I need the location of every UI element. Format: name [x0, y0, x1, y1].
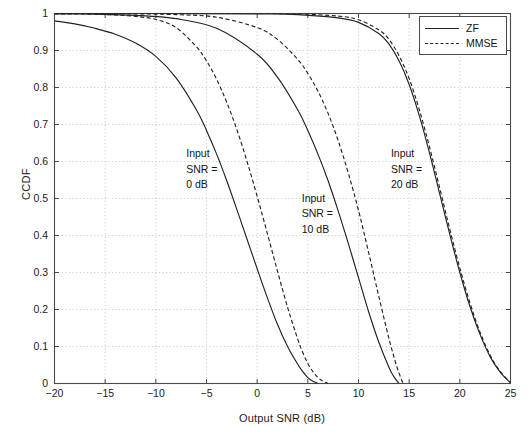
x-axis-label: Output SNR (dB) [54, 412, 510, 424]
x-tick-label: −10 [136, 387, 176, 399]
x-tick-label: 0 [237, 387, 277, 399]
y-tick-label: 0.2 [8, 303, 48, 315]
chart-annotation: Input SNR = 20 dB [391, 146, 422, 193]
legend-item-label: ZF [466, 22, 479, 34]
y-tick-label: 1 [8, 7, 48, 19]
chart-annotation: Input SNR = 0 dB [186, 146, 217, 193]
legend-line-swatch-icon [425, 38, 459, 48]
y-tick-label: 0.9 [8, 44, 48, 56]
y-tick-label: 0.1 [8, 340, 48, 352]
legend-line-swatch-icon [425, 23, 459, 33]
x-tick-label: 15 [389, 387, 429, 399]
series-line-0 [55, 21, 318, 384]
x-tick-label: 5 [288, 387, 328, 399]
legend-item-zf[interactable]: ZF [420, 20, 503, 35]
series-line-2 [55, 14, 400, 384]
y-tick-label: 0.4 [8, 229, 48, 241]
y-tick-label: 0.8 [8, 81, 48, 93]
x-tick-label: −5 [187, 387, 227, 399]
series-line-3 [55, 13, 404, 383]
y-tick-label: 0.6 [8, 155, 48, 167]
legend-item-mmse[interactable]: MMSE [420, 35, 503, 50]
x-tick-label: −15 [85, 387, 125, 399]
chart-figure: CCDF Output SNR (dB) −20−15−10−505101520… [0, 0, 531, 435]
x-tick-label: 20 [440, 387, 480, 399]
y-tick-label: 0.5 [8, 192, 48, 204]
x-tick-label: 10 [339, 387, 379, 399]
y-tick-label: 0 [8, 377, 48, 389]
y-tick-label: 0.3 [8, 266, 48, 278]
x-tick-label: −20 [35, 387, 75, 399]
legend-item-label: MMSE [466, 37, 498, 49]
x-tick-label: 25 [491, 387, 531, 399]
chart-annotation: Input SNR = 10 dB [302, 191, 333, 238]
chart-legend: ZFMMSE [419, 16, 507, 55]
y-tick-label: 0.7 [8, 118, 48, 130]
chart-plot-area [0, 0, 531, 435]
